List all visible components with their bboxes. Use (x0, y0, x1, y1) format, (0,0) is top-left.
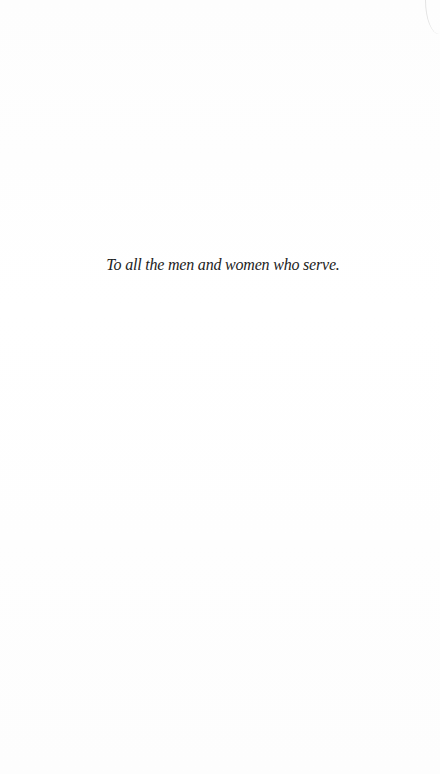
dedication-text: To all the men and women who serve. (0, 256, 440, 274)
page-curl-icon (425, 0, 440, 34)
book-page: To all the men and women who serve. (0, 0, 440, 774)
